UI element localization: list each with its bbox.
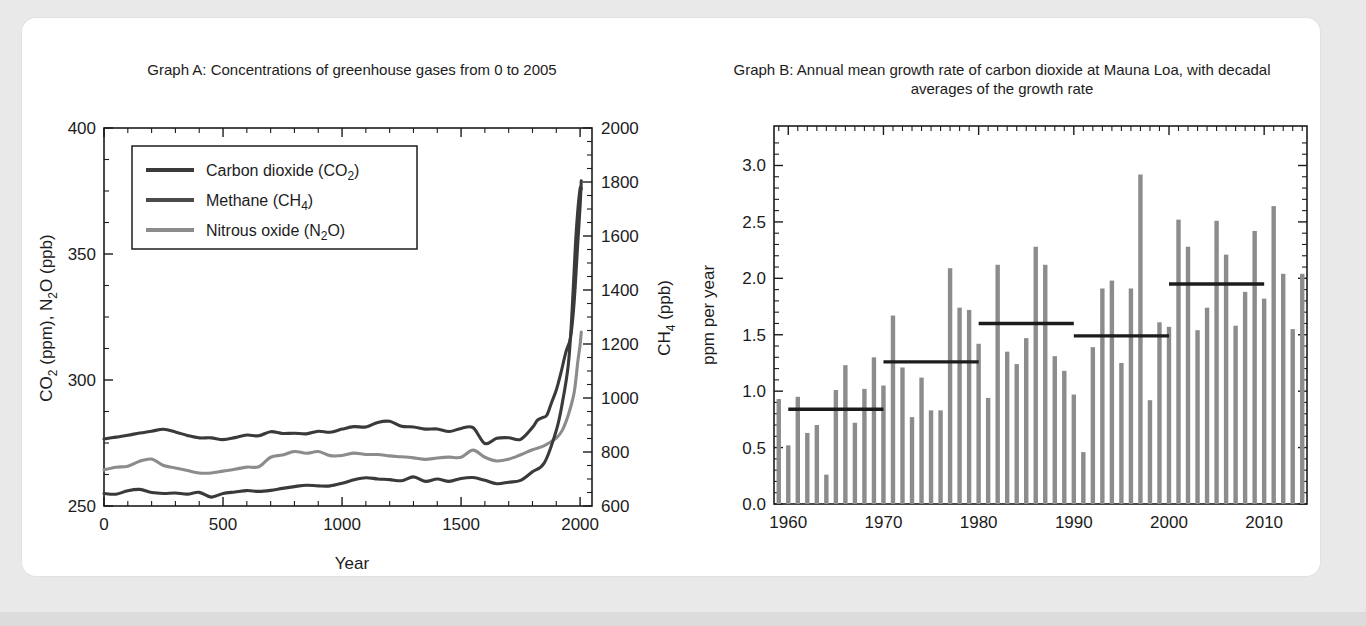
- graph-b-bar: [1053, 356, 1057, 504]
- graph-b-bar: [1110, 281, 1114, 504]
- graph-b-ytick: 2.5: [742, 213, 766, 232]
- graph-b-bar: [910, 417, 914, 504]
- graph-b-bar: [843, 365, 847, 504]
- graph-a-right-axis-label: CH4 (ppb): [655, 280, 678, 356]
- graph-b-yaxis-label: ppm per year: [699, 265, 718, 365]
- graph-b-bar: [1081, 452, 1085, 504]
- graph-b-ytick: 1.0: [742, 382, 766, 401]
- graph-b-bar: [938, 410, 942, 504]
- graph-b-xtick: 1990: [1055, 513, 1093, 532]
- graph-b-bar: [900, 367, 904, 504]
- graph-b-bar: [919, 378, 923, 504]
- graph-a-ytick-right: 800: [601, 443, 629, 462]
- graph-b-bar: [1291, 329, 1295, 504]
- graph-b-bar: [853, 423, 857, 504]
- graph-b-ytick: 0.0: [742, 495, 766, 514]
- graph-b-tick-labels: 1960197019801990200020100.00.51.01.52.02…: [742, 156, 1283, 532]
- graph-b-bar: [1100, 288, 1104, 504]
- graph-b-bar: [948, 268, 952, 504]
- graph-b-bar: [1062, 371, 1066, 504]
- figure-card: Graph A: Concentrations of greenhouse ga…: [22, 18, 1320, 576]
- graph-b-ytick: 3.0: [742, 156, 766, 175]
- graph-b-bar: [957, 308, 961, 504]
- graph-a-ytick-right: 600: [601, 497, 629, 516]
- graph-a-ytick-left: 250: [68, 497, 96, 516]
- graph-b-bar: [1300, 274, 1304, 504]
- graph-a-xtick: 0: [99, 515, 108, 534]
- graph-b-bars: [777, 175, 1305, 504]
- graph-b-bar: [1138, 175, 1142, 504]
- graph-b-ytick: 0.5: [742, 439, 766, 458]
- graph-b-bar: [1195, 330, 1199, 504]
- graph-b-bar: [862, 389, 866, 504]
- graph-a-xtick: 1000: [323, 515, 361, 534]
- graph-b-bar: [1072, 395, 1076, 504]
- svg-text:CH4 (ppb): CH4 (ppb): [655, 280, 678, 356]
- graph-a-legend: Carbon dioxide (CO2) Methane (CH4) Nitro…: [132, 146, 417, 249]
- graph-a-ytick-right: 1400: [601, 281, 639, 300]
- graph-b-bar: [1176, 220, 1180, 504]
- graph-a-ytick-left: 350: [68, 245, 96, 264]
- graph-b-bar: [1148, 400, 1152, 504]
- graph-a-xtick: 2000: [561, 515, 599, 534]
- graph-b-bar: [1214, 221, 1218, 504]
- graph-b-bar: [805, 433, 809, 504]
- svg-text:CO2 (ppm), N2O (ppb): CO2 (ppm), N2O (ppb): [37, 234, 60, 401]
- graph-a-title: Graph A: Concentrations of greenhouse ga…: [42, 60, 662, 79]
- graph-b-bar: [1252, 231, 1256, 504]
- graph-b-bar: [1005, 352, 1009, 504]
- graph-b-bar: [1129, 288, 1133, 504]
- graph-b-title: Graph B: Annual mean growth rate of carb…: [712, 60, 1292, 98]
- graph-a-ytick-right: 2000: [601, 119, 639, 138]
- graph-b-bar: [1271, 206, 1275, 504]
- graph-a-left-axis-label: CO2 (ppm), N2O (ppb): [37, 234, 60, 401]
- graph-b-bar: [995, 265, 999, 504]
- graph-b-bar: [1091, 347, 1095, 504]
- graph-b-bar: [777, 399, 781, 504]
- graph-b-xtick: 1970: [865, 513, 903, 532]
- graph-b-bar: [1205, 308, 1209, 504]
- graph-b-bar: [1224, 255, 1228, 504]
- graph-b-xtick: 2000: [1150, 513, 1188, 532]
- graph-b-bar: [1157, 322, 1161, 504]
- graph-b-bar: [796, 397, 800, 504]
- graph-b-bar: [834, 390, 838, 504]
- graph-b-bar: [891, 316, 895, 504]
- graph-a-xtick: 500: [209, 515, 237, 534]
- graph-b-bar: [1015, 364, 1019, 504]
- graph-a-ytick-right: 1800: [601, 173, 639, 192]
- graph-b-bar: [881, 386, 885, 504]
- graph-a-xaxis-label: Year: [335, 554, 370, 573]
- graph-b-panel: Graph B: Annual mean growth rate of carb…: [682, 18, 1320, 576]
- graph-b-bar: [786, 445, 790, 504]
- graph-a-ytick-left: 300: [68, 371, 96, 390]
- bottom-strip: [0, 612, 1366, 626]
- graph-a-ytick-right: 1200: [601, 335, 639, 354]
- graph-a-panel: Graph A: Concentrations of greenhouse ga…: [22, 18, 682, 576]
- graph-b-bar: [986, 398, 990, 504]
- graph-b-bar: [1281, 274, 1285, 504]
- graph-b-xtick: 1980: [960, 513, 998, 532]
- graph-b-bar: [1119, 363, 1123, 504]
- graph-b-bar: [1043, 265, 1047, 504]
- graph-b-bar: [872, 357, 876, 504]
- graph-b-xtick: 1960: [769, 513, 807, 532]
- graph-b-bar: [1167, 327, 1171, 504]
- graph-b-bar: [1262, 299, 1266, 504]
- graph-b-svg: 1960197019801990200020100.00.51.01.52.02…: [682, 18, 1320, 576]
- graph-b-ytick: 1.5: [742, 326, 766, 345]
- graph-b-bar: [929, 410, 933, 504]
- graph-a-xtick: 1500: [442, 515, 480, 534]
- graph-b-bar: [967, 310, 971, 504]
- graph-a-svg: 0500100015002000250300350400600800100012…: [22, 18, 682, 576]
- graph-b-bar: [1243, 292, 1247, 504]
- graph-a-line-n2o: [104, 332, 581, 473]
- graph-b-bar: [824, 475, 828, 504]
- graph-b-bar: [1024, 338, 1028, 504]
- graph-b-xtick: 2010: [1245, 513, 1283, 532]
- graph-b-bar: [815, 425, 819, 504]
- graph-a-ytick-left: 400: [68, 119, 96, 138]
- graph-b-bar: [1034, 247, 1038, 504]
- graph-a-ytick-right: 1000: [601, 389, 639, 408]
- graph-b-ytick: 2.0: [742, 269, 766, 288]
